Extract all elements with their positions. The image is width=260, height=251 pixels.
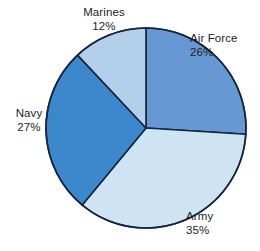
slice-label-navy-name: Navy	[2, 107, 56, 121]
slice-label-marines-name: Marines	[62, 6, 146, 20]
slice-label-air-force: Air Force 26%	[190, 32, 260, 59]
slice-label-army-name: Army	[186, 210, 248, 224]
pie-chart: Marines 12% Air Force 26% Navy 27% Army …	[0, 0, 260, 251]
slice-label-army: Army 35%	[186, 210, 248, 237]
slice-label-air-force-name: Air Force	[190, 32, 260, 46]
slice-label-marines-value: 12%	[62, 20, 146, 34]
slice-label-marines: Marines 12%	[62, 6, 146, 33]
slice-label-navy: Navy 27%	[2, 107, 56, 134]
slice-label-army-value: 35%	[186, 224, 248, 238]
slice-label-air-force-value: 26%	[190, 46, 260, 60]
slice-label-navy-value: 27%	[2, 121, 56, 135]
